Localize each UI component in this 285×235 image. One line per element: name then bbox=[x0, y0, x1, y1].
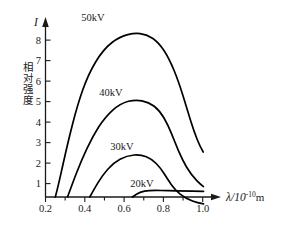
y-tick-labels: 1 2 3 4 5 6 7 8 bbox=[36, 35, 42, 190]
plot-area: I 1 2 3 4 5 6 7 8 bbox=[0, 0, 285, 235]
x-axis-arrow-icon bbox=[211, 194, 221, 200]
y-axis-ticks bbox=[46, 40, 51, 184]
curve-label-40kv: 40kV bbox=[99, 87, 123, 98]
x-tick-label: 0.4 bbox=[78, 203, 92, 214]
x-tick-label: 1.0 bbox=[196, 203, 209, 214]
curve-label-20kv: 20kV bbox=[130, 178, 154, 189]
svg-text:λ/10-10m: λ/10-10m bbox=[225, 190, 265, 203]
x-axis-title-unit: m bbox=[256, 191, 265, 203]
y-axis-symbol: I bbox=[33, 16, 39, 28]
y-tick-label: 1 bbox=[36, 178, 41, 189]
y-tick-label: 6 bbox=[36, 76, 41, 87]
x-tick-label: 0.2 bbox=[39, 203, 52, 214]
y-tick-label: 2 bbox=[36, 158, 41, 169]
y-tick-label: 8 bbox=[36, 35, 41, 46]
y-tick-label: 5 bbox=[36, 96, 41, 107]
x-axis-title-exponent: -10 bbox=[246, 190, 256, 199]
curve-label-30kv: 30kV bbox=[110, 141, 134, 152]
curve-label-50kv: 50kV bbox=[81, 12, 105, 23]
y-tick-label: 7 bbox=[36, 55, 41, 66]
x-axis-title-base: λ/10 bbox=[225, 191, 246, 203]
y-tick-label: 4 bbox=[36, 117, 42, 128]
x-tick-label: 0.8 bbox=[157, 203, 170, 214]
curve-20kv bbox=[133, 190, 204, 197]
y-tick-label: 3 bbox=[36, 137, 41, 148]
y-axis-arrow-icon bbox=[42, 17, 49, 27]
x-axis-ticks bbox=[46, 197, 203, 202]
x-tick-labels: 0.2 0.4 0.6 0.8 1.0 bbox=[39, 203, 209, 214]
xray-spectrum-chart: 相对强度 I 1 2 3 4 5 bbox=[0, 0, 285, 235]
x-axis-title: λ/10-10m bbox=[225, 190, 265, 203]
x-tick-label: 0.6 bbox=[118, 203, 131, 214]
